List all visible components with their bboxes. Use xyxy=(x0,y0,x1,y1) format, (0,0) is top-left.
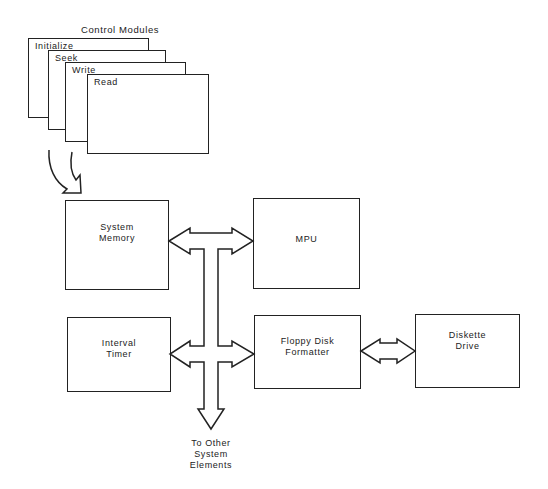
curved-load-arrow-icon xyxy=(49,150,81,193)
formatter-drive-bidirectional-arrow-icon xyxy=(361,339,415,363)
connection-arrows xyxy=(0,0,548,489)
floppy-disk-system-diagram: Control Modules Initialize Seek Write Re… xyxy=(0,0,548,489)
to-other-system-elements-caption: To Other System Elements xyxy=(171,438,251,471)
system-bus-arrow-icon xyxy=(169,228,254,429)
